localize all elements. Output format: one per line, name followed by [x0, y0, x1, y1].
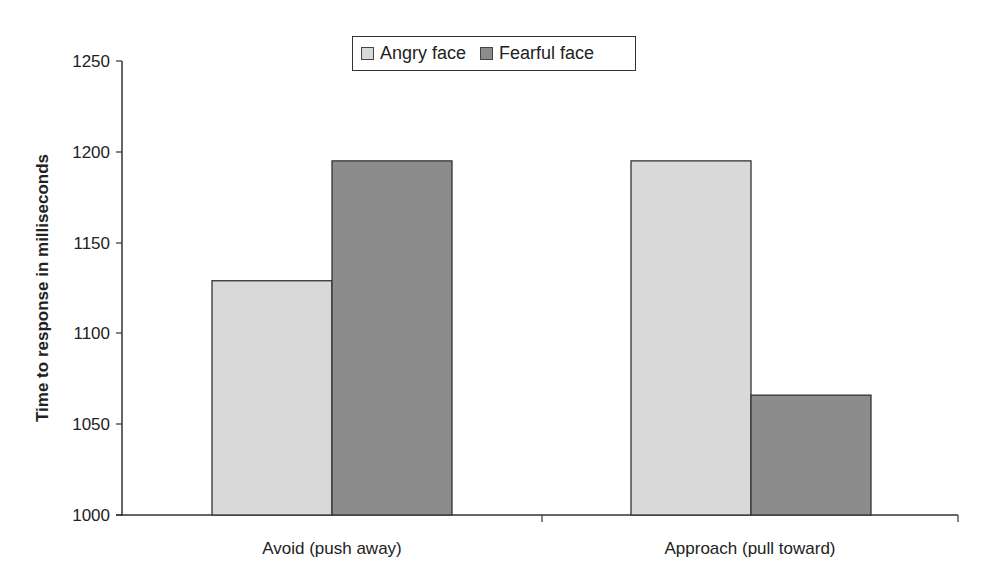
- y-tick-label: 1100: [73, 324, 110, 343]
- y-tick-label: 1000: [72, 506, 110, 525]
- legend-label: Fearful face: [499, 43, 594, 64]
- y-tick-label: 1150: [73, 234, 110, 253]
- bar-chart: Time to response in milliseconds 1250 12…: [0, 0, 990, 585]
- y-tick-label: 1050: [72, 415, 110, 434]
- y-tick-labels: 1250 1200 1150 1100 1050 1000: [72, 52, 110, 525]
- x-category-label-approach: Approach (pull toward): [664, 539, 835, 558]
- bar-fearful-face-avoid: [332, 161, 452, 515]
- y-tick-label: 1250: [72, 52, 110, 71]
- y-axis-title: Time to response in milliseconds: [33, 154, 52, 422]
- legend-label: Angry face: [380, 43, 466, 64]
- bar-angry-face-avoid: [212, 281, 332, 515]
- legend-item-fearful-face: Fearful face: [480, 43, 594, 64]
- legend-swatch-angry-icon: [361, 47, 374, 60]
- bar-angry-face-approach: [631, 161, 751, 515]
- legend: Angry face Fearful face: [352, 36, 636, 71]
- y-tick-label: 1200: [72, 143, 110, 162]
- legend-swatch-fearful-icon: [480, 47, 493, 60]
- x-ticks: [542, 515, 958, 522]
- bar-fearful-face-approach: [751, 395, 871, 515]
- bars: [212, 161, 871, 515]
- y-ticks: [116, 61, 122, 515]
- legend-item-angry-face: Angry face: [361, 43, 466, 64]
- x-category-label-avoid: Avoid (push away): [262, 539, 402, 558]
